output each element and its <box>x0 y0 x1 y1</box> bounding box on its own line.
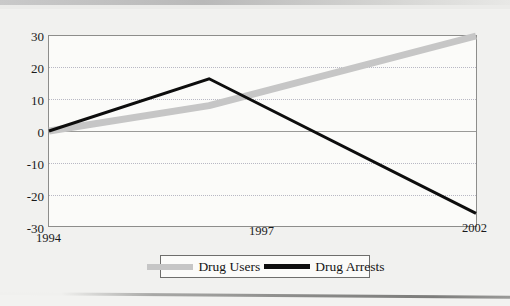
y-tick-label-20: 20 <box>0 62 44 75</box>
y-tick-label-neg20: -20 <box>0 190 44 203</box>
series-line-drug-arrests <box>49 79 476 214</box>
legend-label-drug-users: Drug Users <box>198 260 264 274</box>
chart-legend: Drug Users Drug Arrests <box>160 255 370 278</box>
chart-page: 30 20 10 0 -10 -20 -30 1994 1997 2002 D <box>0 0 510 306</box>
x-tick-label-1994: 1994 <box>36 232 61 245</box>
legend-label-drug-arrests: Drug Arrests <box>315 260 388 274</box>
x-tick-label-1997: 1997 <box>249 225 274 238</box>
x-tick-label-2002: 2002 <box>462 222 487 235</box>
y-tick-label-10: 10 <box>0 94 44 107</box>
y-tick-label-neg10: -10 <box>0 158 44 171</box>
plot-area <box>48 35 477 227</box>
y-tick-label-0: 0 <box>0 126 44 139</box>
legend-item-drug-arrests: Drug Arrests <box>264 260 388 274</box>
line-chart: 30 20 10 0 -10 -20 -30 1994 1997 2002 D <box>0 9 510 292</box>
series-line-drug-users <box>49 36 476 131</box>
y-tick-label-30: 30 <box>0 30 44 43</box>
legend-swatch-drug-users-icon <box>147 264 193 270</box>
legend-swatch-drug-arrests-icon <box>264 264 310 269</box>
series-svg <box>49 36 476 226</box>
legend-item-drug-users: Drug Users <box>141 260 264 274</box>
page-bottom-rule <box>0 292 510 299</box>
